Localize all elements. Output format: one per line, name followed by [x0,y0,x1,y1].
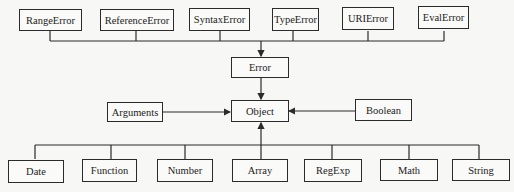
node-number: Number [157,159,213,182]
node-error: Error [231,57,289,78]
node-date: Date [8,160,64,183]
node-math: Math [380,159,438,181]
node-regexp: RegExp [304,159,362,182]
node-arguments: Arguments [107,102,163,122]
node-function: Function [82,159,137,182]
node-array: Array [232,159,288,182]
node-range-error: RangeError [19,9,82,31]
node-string: String [452,159,510,181]
node-reference-error: ReferenceError [100,9,174,31]
node-uri-error: URIError [342,7,394,30]
node-syntax-error: SyntaxError [189,8,250,31]
node-object: Object [231,100,289,122]
hierarchy-diagram: RangeError ReferenceError SyntaxError Ty… [0,0,514,192]
node-boolean: Boolean [355,99,412,121]
node-type-error: TypeError [272,8,319,31]
node-eval-error: EvalError [418,6,469,29]
